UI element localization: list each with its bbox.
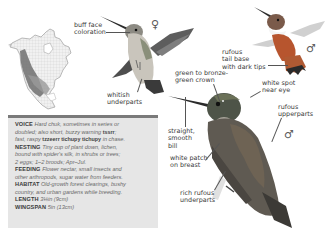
north-america-map-icon [8,25,73,110]
callout-rich-rufous-underparts: rich rufous underparts [180,190,215,205]
callout-white-spot-near-eye: white spot near eye [262,80,295,95]
callout-rufous-tail-base: rufous tail base with dark tips [222,49,266,71]
feeding-row: FEEDING Flower nectar, small insects and [15,166,157,174]
wingspan-row: WINGSPAN 5in (13cm) [15,204,157,212]
habitat-line2: country, and urban gardens while breedin… [15,189,157,197]
male-symbol-icon: ♂ [284,129,294,140]
voice-line2a: doubled; also short, buzzy warning [15,129,103,135]
habitat-label: HABITAT [15,181,39,187]
nesting-line2: bound with spider's silk, in shrubs or t… [15,151,157,159]
nesting-line3: 2 eggs; 1–2 broods; Apr–Jul. [15,159,157,167]
leader-line [185,97,186,127]
range-map [8,25,73,110]
info-text: VOICE Hard chuk, sometimes in series or … [15,121,157,212]
voice-label: VOICE [15,121,33,127]
leader-line [106,32,130,33]
length-label: LENGTH [15,196,39,202]
info-box-top-bar [8,115,158,118]
callout-rufous-upperparts: rufous upperparts [278,104,313,119]
voice-line2c: ; [115,129,117,135]
wingspan-value: 5in (13cm) [48,204,74,210]
wingspan-label: WINGSPAN [15,204,46,210]
callout-straight-smooth-bill: straight, smooth bill [168,128,195,150]
voice-line1: Hard chuk, sometimes in series or [34,121,119,127]
voice-line3c: in chase. [101,136,125,142]
leader-line [268,65,288,66]
nesting-row: NESTING Tiny cup of plant down, lichen, [15,144,157,152]
feeding-label: FEEDING [15,166,41,172]
voice-row-2: doubled; also short, buzzy warning tssrr… [15,129,157,137]
habitat-line1: Old-growth forest clearings, bushy [41,181,126,187]
male-symbol-icon: ♂ [306,43,316,54]
length-row: LENGTH 3¼in (9cm) [15,196,157,204]
voice-call-chase: tzzeerr tichupy tichupy [42,136,101,142]
nesting-label: NESTING [15,144,41,150]
female-symbol-icon: ♀ [151,19,159,30]
species-info-box: VOICE Hard chuk, sometimes in series or … [8,115,158,228]
callout-whitish-underparts: whitish underparts [107,92,142,107]
feeding-line1: Flower nectar, small insects and [42,166,122,172]
voice-call-tssrr: tssrr [103,129,115,135]
voice-line3a: fast, raspy [15,136,42,142]
nesting-line1: Tiny cup of plant down, lichen, [42,144,117,150]
feeding-line2: other arthropods, sugar water from feede… [15,174,157,182]
voice-row: VOICE Hard chuk, sometimes in series or [15,121,157,129]
callout-green-bronze-crown: green to bronze- green crown [175,70,228,85]
callout-buff-face-coloration: buff face coloration [74,22,106,37]
habitat-row: HABITAT Old-growth forest clearings, bus… [15,181,157,189]
length-value: 3¼in (9cm) [40,196,68,202]
callout-white-patch-breast: white patch on breast [170,155,208,170]
voice-row-3: fast, raspy tzzeerr tichupy tichupy in c… [15,136,157,144]
